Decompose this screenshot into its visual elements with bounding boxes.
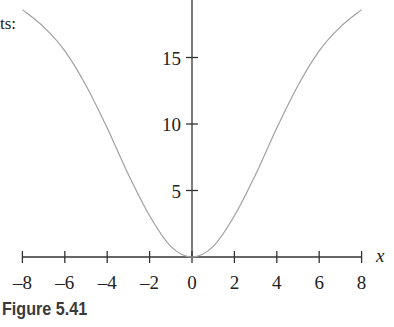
axes (22, 0, 362, 257)
y-tick-label: 15 (162, 48, 181, 69)
x-tick-label: 6 (314, 272, 324, 293)
x-tick-label: –8 (12, 272, 32, 293)
x-tick-label: –6 (54, 272, 74, 293)
x-tick-label: 0 (187, 272, 197, 293)
x-tick-label: 2 (230, 272, 240, 293)
figure-caption: Figure 5.41 (2, 298, 87, 320)
x-tick-label: 8 (357, 272, 367, 293)
x-tick-label: –2 (139, 272, 159, 293)
chart: –8–6–4–202468 51015 x (0, 0, 394, 327)
x-axis-label: x (375, 245, 385, 266)
x-tick-label: 4 (272, 272, 282, 293)
y-tick-label: 10 (162, 114, 181, 135)
y-tick-label: 5 (172, 181, 182, 202)
x-tick-label: –4 (97, 272, 118, 293)
